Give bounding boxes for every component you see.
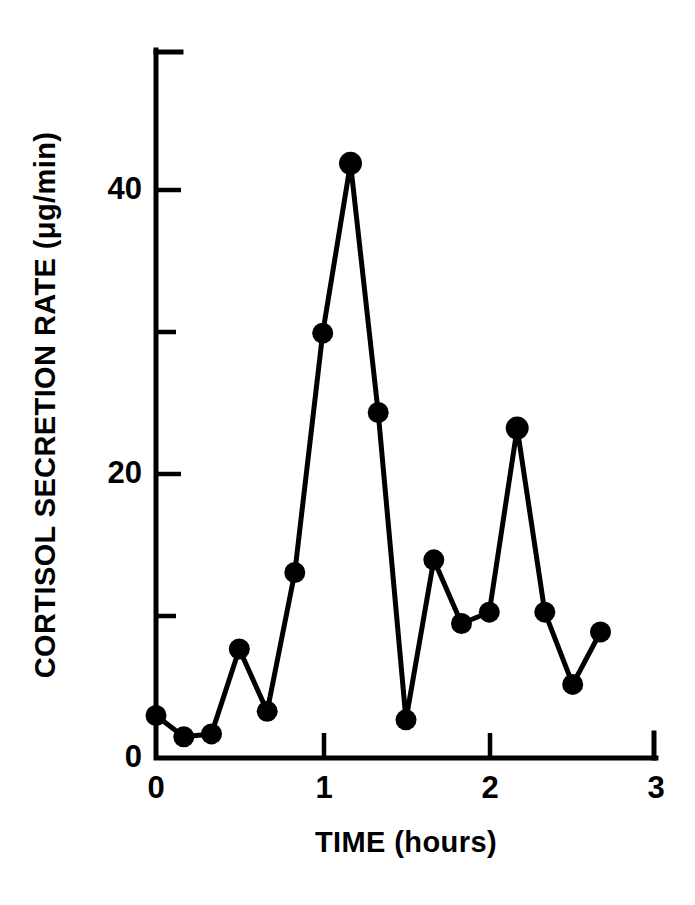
data-point — [590, 622, 611, 643]
data-point — [396, 709, 417, 730]
data-point — [451, 613, 472, 634]
data-point — [423, 549, 444, 570]
data-point — [257, 701, 278, 722]
data-point — [229, 639, 250, 660]
y-tick-label-0: 0 — [82, 741, 142, 772]
x-tick-label-0: 0 — [136, 772, 176, 803]
data-point — [562, 674, 583, 695]
data-point — [479, 602, 500, 623]
figure-cortisol-secretion-rate: CORTISOL SECRETION RATE (μg/min) TIME (h… — [0, 0, 695, 905]
data-point — [534, 602, 555, 623]
data-point — [312, 323, 333, 344]
x-tick-label-3: 3 — [636, 772, 676, 803]
data-series-line — [156, 163, 601, 737]
data-point — [339, 152, 362, 175]
y-tick-label-20: 20 — [82, 457, 142, 488]
data-point — [201, 723, 222, 744]
x-tick-label-2: 2 — [470, 772, 510, 803]
x-tick-label-1: 1 — [304, 772, 344, 803]
data-point — [368, 402, 389, 423]
y-tick-label-40: 40 — [82, 173, 142, 204]
data-point — [506, 417, 529, 440]
data-point — [173, 726, 194, 747]
data-point — [284, 562, 305, 583]
data-point — [146, 705, 167, 726]
